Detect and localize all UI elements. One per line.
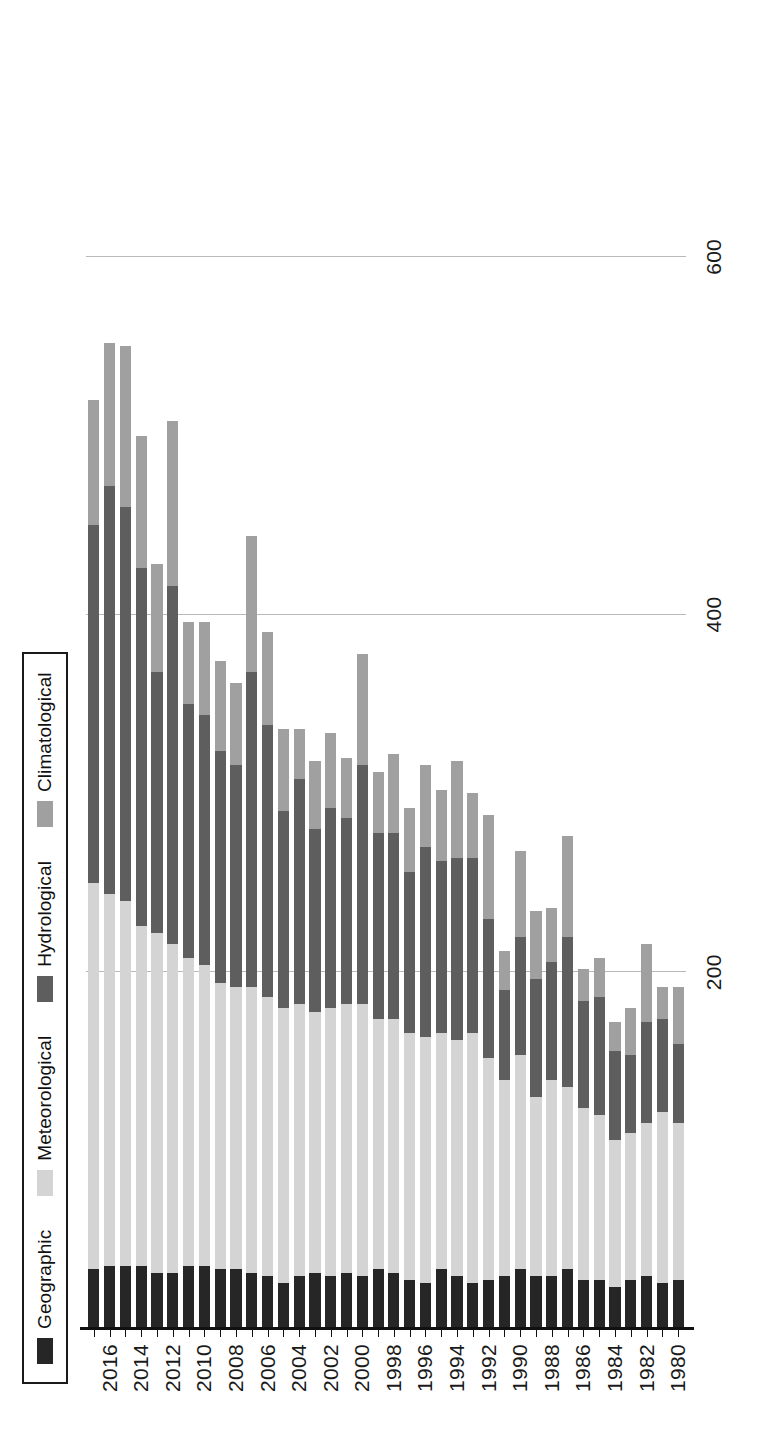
- bar-segment-hydrological[interactable]: [578, 1001, 589, 1108]
- bar-segment-hydrological[interactable]: [294, 779, 305, 1004]
- bar-segment-climatological[interactable]: [594, 958, 605, 997]
- bar-segment-climatological[interactable]: [120, 346, 131, 507]
- bar-segment-hydrological[interactable]: [420, 847, 431, 1037]
- bar-segment-hydrological[interactable]: [594, 997, 605, 1115]
- bar-segment-meteorological[interactable]: [278, 1008, 289, 1283]
- bar-segment-meteorological[interactable]: [246, 987, 257, 1273]
- bar-segment-climatological[interactable]: [420, 765, 431, 847]
- bar-segment-meteorological[interactable]: [373, 1019, 384, 1269]
- bar-segment-hydrological[interactable]: [657, 1019, 668, 1112]
- bar-segment-meteorological[interactable]: [578, 1108, 589, 1280]
- bar-segment-meteorological[interactable]: [562, 1087, 573, 1269]
- bar-segment-hydrological[interactable]: [467, 858, 478, 1033]
- bar-segment-geographic[interactable]: [388, 1273, 399, 1330]
- bar-segment-climatological[interactable]: [578, 969, 589, 1001]
- bar-row[interactable]: [215, 78, 226, 1330]
- bar-segment-meteorological[interactable]: [530, 1098, 541, 1277]
- bar-row[interactable]: [388, 78, 399, 1330]
- bar-segment-geographic[interactable]: [309, 1273, 320, 1330]
- bar-segment-geographic[interactable]: [199, 1266, 210, 1330]
- bar-row[interactable]: [199, 78, 210, 1330]
- bar-row[interactable]: [278, 78, 289, 1330]
- bar-segment-climatological[interactable]: [546, 908, 557, 962]
- bar-row[interactable]: [436, 78, 447, 1330]
- bar-segment-meteorological[interactable]: [309, 1012, 320, 1273]
- bar-segment-meteorological[interactable]: [546, 1080, 557, 1277]
- bar-segment-meteorological[interactable]: [120, 901, 131, 1266]
- bar-segment-meteorological[interactable]: [151, 933, 162, 1273]
- bar-segment-climatological[interactable]: [262, 632, 273, 725]
- bar-segment-geographic[interactable]: [341, 1273, 352, 1330]
- bar-segment-geographic[interactable]: [230, 1269, 241, 1330]
- bar-segment-hydrological[interactable]: [262, 725, 273, 997]
- bar-segment-hydrological[interactable]: [373, 833, 384, 1019]
- bar-segment-meteorological[interactable]: [483, 1058, 494, 1280]
- bar-segment-hydrological[interactable]: [183, 704, 194, 958]
- bar-row[interactable]: [325, 78, 336, 1330]
- bar-segment-meteorological[interactable]: [436, 1033, 447, 1269]
- bar-segment-meteorological[interactable]: [230, 987, 241, 1270]
- bar-segment-geographic[interactable]: [420, 1284, 431, 1331]
- bar-segment-hydrological[interactable]: [104, 486, 115, 894]
- bar-segment-meteorological[interactable]: [262, 997, 273, 1276]
- bar-segment-climatological[interactable]: [325, 733, 336, 808]
- bar-segment-hydrological[interactable]: [215, 751, 226, 984]
- bar-segment-geographic[interactable]: [657, 1284, 668, 1331]
- bar-row[interactable]: [562, 78, 573, 1330]
- bar-segment-climatological[interactable]: [136, 436, 147, 568]
- bar-segment-climatological[interactable]: [167, 421, 178, 586]
- bar-segment-hydrological[interactable]: [609, 1051, 620, 1140]
- bar-segment-climatological[interactable]: [373, 772, 384, 833]
- bar-segment-hydrological[interactable]: [530, 979, 541, 1097]
- bar-segment-climatological[interactable]: [404, 808, 415, 872]
- bar-segment-hydrological[interactable]: [499, 990, 510, 1079]
- bar-segment-climatological[interactable]: [357, 654, 368, 765]
- bar-segment-hydrological[interactable]: [88, 525, 99, 883]
- bar-segment-meteorological[interactable]: [183, 958, 194, 1266]
- bar-segment-hydrological[interactable]: [483, 919, 494, 1059]
- bar-row[interactable]: [641, 78, 652, 1330]
- bar-segment-hydrological[interactable]: [357, 765, 368, 1005]
- bar-row[interactable]: [151, 78, 162, 1330]
- bar-segment-climatological[interactable]: [467, 793, 478, 857]
- bar-segment-hydrological[interactable]: [341, 818, 352, 1004]
- bar-segment-hydrological[interactable]: [673, 1044, 684, 1123]
- bar-row[interactable]: [167, 78, 178, 1330]
- bar-segment-climatological[interactable]: [436, 790, 447, 862]
- bar-row[interactable]: [341, 78, 352, 1330]
- bar-segment-geographic[interactable]: [530, 1276, 541, 1330]
- legend-item[interactable]: Geographic: [34, 1230, 56, 1364]
- bar-segment-geographic[interactable]: [625, 1280, 636, 1330]
- bar-segment-climatological[interactable]: [673, 987, 684, 1044]
- bar-segment-geographic[interactable]: [325, 1276, 336, 1330]
- bar-segment-climatological[interactable]: [278, 729, 289, 811]
- bar-segment-geographic[interactable]: [578, 1280, 589, 1330]
- bar-segment-geographic[interactable]: [451, 1276, 462, 1330]
- bar-segment-geographic[interactable]: [120, 1266, 131, 1330]
- bar-row[interactable]: [499, 78, 510, 1330]
- bar-segment-climatological[interactable]: [515, 851, 526, 937]
- bar-segment-geographic[interactable]: [183, 1266, 194, 1330]
- bar-segment-geographic[interactable]: [167, 1273, 178, 1330]
- bar-row[interactable]: [104, 78, 115, 1330]
- bar-segment-geographic[interactable]: [136, 1266, 147, 1330]
- bar-segment-geographic[interactable]: [641, 1276, 652, 1330]
- bar-segment-hydrological[interactable]: [515, 937, 526, 1055]
- bar-segment-meteorological[interactable]: [167, 944, 178, 1273]
- bar-segment-geographic[interactable]: [546, 1276, 557, 1330]
- bar-row[interactable]: [88, 78, 99, 1330]
- bar-row[interactable]: [657, 78, 668, 1330]
- bar-row[interactable]: [594, 78, 605, 1330]
- bar-segment-geographic[interactable]: [262, 1276, 273, 1330]
- bar-segment-geographic[interactable]: [151, 1273, 162, 1330]
- bar-segment-climatological[interactable]: [246, 536, 257, 672]
- bar-segment-hydrological[interactable]: [151, 672, 162, 933]
- bar-row[interactable]: [546, 78, 557, 1330]
- bar-segment-meteorological[interactable]: [357, 1004, 368, 1276]
- bar-segment-geographic[interactable]: [515, 1269, 526, 1330]
- bar-segment-geographic[interactable]: [673, 1280, 684, 1330]
- bar-row[interactable]: [404, 78, 415, 1330]
- bar-row[interactable]: [120, 78, 131, 1330]
- bar-segment-hydrological[interactable]: [546, 962, 557, 1080]
- bar-segment-climatological[interactable]: [530, 912, 541, 980]
